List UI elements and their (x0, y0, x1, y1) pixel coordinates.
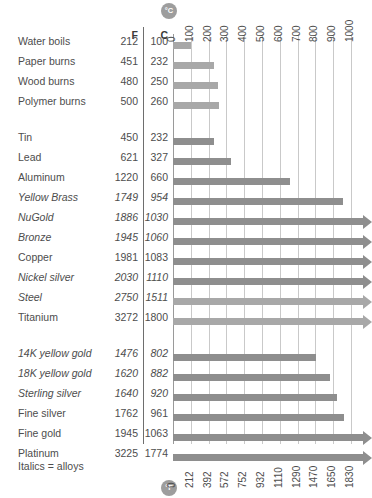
tick-fahrenheit-932: 932 (256, 471, 266, 488)
row-fahrenheit-water-boils: 212 (100, 36, 138, 47)
row-label-steel: Steel (18, 292, 42, 303)
bar-fine-silver (173, 414, 344, 421)
bar-fine-gold (173, 434, 363, 441)
tick-celsius-700: 700 (292, 25, 302, 42)
row-label-14k-yellow-gold: 14K yellow gold (18, 348, 92, 359)
bar-platinum (173, 454, 363, 461)
tick-celsius-400: 400 (238, 25, 248, 42)
row-celsius-wood-burns: 250 (134, 76, 168, 87)
row-label-nickel-silver: Nickel silver (18, 272, 74, 283)
tick-celsius-0: 0 (167, 36, 177, 42)
row-celsius-bronze: 1060 (134, 232, 168, 243)
row-fahrenheit-sterling-silver: 1640 (100, 388, 138, 399)
bar-water-boils (173, 42, 191, 49)
row-label-fine-silver: Fine silver (18, 408, 66, 419)
row-fahrenheit-titanium: 3272 (100, 312, 138, 323)
row-celsius-polymer-burns: 260 (134, 96, 168, 107)
row-label-18k-yellow-gold: 18K yellow gold (18, 368, 92, 379)
bar-bronze (173, 238, 363, 245)
tick-celsius-200: 200 (203, 25, 213, 42)
tick-celsius-1000: 1000 (345, 20, 355, 42)
tick-celsius-600: 600 (274, 25, 284, 42)
bar-polymer-burns (173, 102, 219, 109)
row-label-lead: Lead (18, 152, 41, 163)
bar-nickel-silver (173, 278, 363, 285)
row-celsius-titanium: 1800 (134, 312, 168, 323)
plot-area (173, 34, 372, 444)
bar-overflow-arrow (363, 255, 372, 269)
row-celsius-yellow-brass: 954 (134, 192, 168, 203)
bar-yellow-brass (173, 198, 343, 205)
tick-celsius-900: 900 (327, 25, 337, 42)
row-fahrenheit-polymer-burns: 500 (100, 96, 138, 107)
row-fahrenheit-lead: 621 (100, 152, 138, 163)
row-fahrenheit-steel: 2750 (100, 292, 138, 303)
tick-fahrenheit-212: 212 (185, 471, 195, 488)
row-label-yellow-brass: Yellow Brass (18, 192, 78, 203)
row-label-water-boils: Water boils (18, 36, 70, 47)
row-celsius-copper: 1083 (134, 252, 168, 263)
footnote-italics-alloys: Italics = alloys (18, 460, 84, 472)
row-label-sterling-silver: Sterling silver (18, 388, 81, 399)
row-celsius-tin: 232 (134, 132, 168, 143)
row-celsius-platinum: 1774 (134, 448, 168, 459)
tick-fahrenheit-1290: 1290 (292, 466, 302, 488)
row-celsius-14k-yellow-gold: 802 (134, 348, 168, 359)
tick-fahrenheit-1470: 1470 (309, 466, 319, 488)
temperature-comparison-chart: °C °F F C Water boils212100Paper burns45… (0, 0, 372, 498)
tick-fahrenheit-1650: 1650 (327, 466, 337, 488)
tick-fahrenheit-572: 572 (220, 471, 230, 488)
row-label-copper: Copper (18, 252, 52, 263)
tick-celsius-300: 300 (220, 25, 230, 42)
row-fahrenheit-14k-yellow-gold: 1476 (100, 348, 138, 359)
row-fahrenheit-aluminum: 1220 (100, 172, 138, 183)
row-label-titanium: Titanium (18, 312, 58, 323)
row-celsius-fine-gold: 1063 (134, 428, 168, 439)
bar-overflow-arrow (363, 431, 372, 445)
bar-paper-burns (173, 62, 214, 69)
row-label-tin: Tin (18, 132, 32, 143)
tick-fahrenheit-752: 752 (238, 471, 248, 488)
tick-celsius-500: 500 (256, 25, 266, 42)
row-fahrenheit-nickel-silver: 2030 (100, 272, 138, 283)
row-label-aluminum: Aluminum (18, 172, 65, 183)
row-celsius-steel: 1511 (134, 292, 168, 303)
bar-overflow-arrow (363, 295, 372, 309)
bar-overflow-arrow (363, 315, 372, 329)
bar-titanium (173, 318, 363, 325)
bar-overflow-arrow (363, 275, 372, 289)
bar-14k-yellow-gold (173, 354, 316, 361)
bar-lead (173, 158, 231, 165)
tick-fahrenheit-392: 392 (203, 471, 213, 488)
row-fahrenheit-nugold: 1886 (100, 212, 138, 223)
row-fahrenheit-yellow-brass: 1749 (100, 192, 138, 203)
celsius-unit-badge: °C (161, 3, 177, 19)
row-fahrenheit-wood-burns: 480 (100, 76, 138, 87)
row-celsius-paper-burns: 232 (134, 56, 168, 67)
row-label-polymer-burns: Polymer burns (18, 96, 86, 107)
row-label-bronze: Bronze (18, 232, 51, 243)
bar-nugold (173, 218, 363, 225)
tick-celsius-800: 800 (309, 25, 319, 42)
bar-overflow-arrow (363, 235, 372, 249)
row-fahrenheit-fine-silver: 1762 (100, 408, 138, 419)
tick-fahrenheit-0: 0 (167, 482, 177, 488)
bar-18k-yellow-gold (173, 374, 330, 381)
bar-wood-burns (173, 82, 218, 89)
bar-overflow-arrow (363, 451, 372, 465)
bar-steel (173, 298, 363, 305)
tick-fahrenheit-1110: 1110 (274, 467, 284, 488)
bar-copper (173, 258, 363, 265)
row-fahrenheit-paper-burns: 451 (100, 56, 138, 67)
row-label-fine-gold: Fine gold (18, 428, 61, 439)
row-celsius-aluminum: 660 (134, 172, 168, 183)
row-label-nugold: NuGold (18, 212, 54, 223)
row-label-platinum: Platinum (18, 448, 59, 459)
tick-celsius-100: 100 (185, 25, 195, 42)
row-celsius-18k-yellow-gold: 882 (134, 368, 168, 379)
row-label-paper-burns: Paper burns (18, 56, 75, 67)
row-celsius-lead: 327 (134, 152, 168, 163)
row-fahrenheit-fine-gold: 1945 (100, 428, 138, 439)
row-label-wood-burns: Wood burns (18, 76, 74, 87)
tick-fahrenheit-1830: 1830 (345, 466, 355, 488)
